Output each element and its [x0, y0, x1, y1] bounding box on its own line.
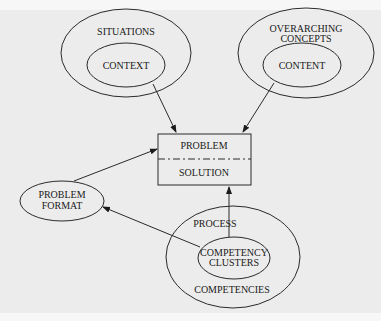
overarching-label-line2: CONCEPTS	[280, 33, 331, 44]
competencies-group: PROCESS COMPETENCY CLUSTERS COMPETENCIES	[166, 206, 300, 308]
context-label: CONTEXT	[103, 60, 150, 71]
situations-label: SITUATIONS	[97, 26, 155, 37]
competencies-label: COMPETENCIES	[194, 284, 270, 295]
solution-label: SOLUTION	[179, 167, 229, 178]
overarching-concepts-ellipse	[238, 8, 374, 98]
situations-group: SITUATIONS CONTEXT	[61, 9, 191, 97]
arrow-context-to-problem	[153, 84, 176, 132]
competency-clusters-line2: CLUSTERS	[209, 257, 259, 268]
problem-format-line1: PROBLEM	[38, 189, 85, 200]
situations-ellipse	[61, 9, 191, 97]
problem-format-line2: FORMAT	[42, 200, 83, 211]
arrow-clusters-to-format	[103, 207, 200, 247]
arrow-content-to-problem	[243, 83, 274, 132]
problem-solution-box: PROBLEM SOLUTION	[158, 134, 251, 185]
arrow-format-to-problem	[74, 149, 157, 181]
diagram-canvas: SITUATIONS CONTEXT OVERARCHING CONCEPTS …	[0, 0, 381, 321]
overarching-concepts-group: OVERARCHING CONCEPTS CONTENT	[238, 8, 374, 98]
process-label: PROCESS	[193, 218, 236, 229]
problem-format-group: PROBLEM FORMAT	[20, 181, 104, 221]
problem-label: PROBLEM	[180, 140, 227, 151]
content-label: CONTENT	[279, 60, 326, 71]
